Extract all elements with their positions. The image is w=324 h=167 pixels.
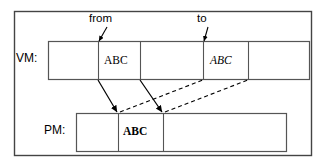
diagram-canvas: VM: PM: from to ABC ABC ABC (0, 0, 324, 167)
copy-arrows (98, 80, 162, 112)
diagram-vector-layer (0, 0, 324, 167)
vm-cell-text-source: ABC (104, 55, 128, 67)
mapping-dashed-lines (120, 80, 248, 112)
from-pointer-line (99, 27, 107, 41)
vm-cell-text-target: ABC (210, 55, 232, 67)
copy-arrow-left (98, 80, 117, 112)
callout-label-to: to (197, 13, 207, 25)
copy-arrow-right (140, 80, 162, 112)
pm-row-box (77, 114, 287, 152)
map-dash-right (165, 80, 248, 112)
pm-row-label: PM: (44, 124, 65, 136)
callout-label-from: from (89, 13, 112, 25)
vm-row-box (49, 42, 310, 80)
vm-row-label: VM: (16, 52, 37, 64)
callout-leaders (99, 27, 208, 41)
to-pointer-line (204, 27, 208, 41)
pm-cell-text-physical: ABC (123, 126, 147, 138)
map-dash-left (120, 80, 203, 112)
